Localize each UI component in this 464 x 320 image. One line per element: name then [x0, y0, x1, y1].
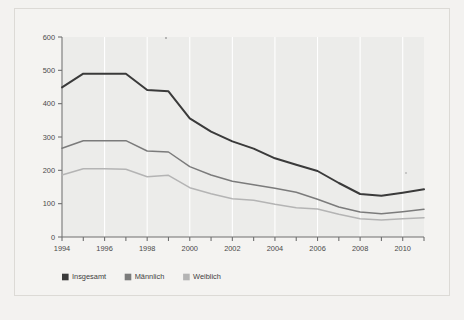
chart-page: 0100200300400500600 19941996199820002002…	[0, 0, 464, 320]
y-tick-label: 300	[43, 133, 55, 142]
x-axis-tick-labels: 199419961998200020022004200620082010	[54, 244, 411, 253]
x-tick-label: 2002	[224, 244, 240, 253]
scan-speck	[165, 37, 167, 39]
legend-label-insgesamt[interactable]: Insgesamt	[72, 272, 106, 281]
line-chart-svg: 0100200300400500600 19941996199820002002…	[0, 0, 464, 320]
y-tick-label: 400	[43, 99, 55, 108]
x-tick-label: 2004	[267, 244, 283, 253]
y-tick-label: 500	[43, 66, 55, 75]
x-tick-label: 1998	[139, 244, 155, 253]
y-tick-label: 600	[43, 33, 55, 42]
x-tick-label: 2010	[394, 244, 410, 253]
y-tick-label: 100	[43, 199, 55, 208]
chart-legend[interactable]: InsgesamtMännlichWeiblich	[62, 272, 221, 281]
chart-canvas: 0100200300400500600 19941996199820002002…	[0, 0, 464, 320]
x-tick-label: 2008	[352, 244, 368, 253]
x-tick-label: 2000	[182, 244, 198, 253]
legend-swatch	[125, 274, 132, 281]
x-tick-label: 1994	[54, 244, 70, 253]
scan-speck	[405, 172, 407, 174]
x-tick-label: 1996	[96, 244, 112, 253]
legend-label-männlich[interactable]: Männlich	[135, 272, 165, 281]
legend-swatch	[62, 274, 69, 281]
plot-area-background	[62, 37, 424, 237]
y-axis-tick-labels: 0100200300400500600	[43, 33, 55, 242]
y-tick-label: 200	[43, 166, 55, 175]
legend-swatch	[183, 274, 190, 281]
x-axis-ticks	[62, 237, 424, 241]
y-axis-ticks	[58, 37, 62, 237]
y-tick-label: 0	[51, 233, 55, 242]
x-tick-label: 2006	[309, 244, 325, 253]
legend-label-weiblich[interactable]: Weiblich	[193, 272, 221, 281]
